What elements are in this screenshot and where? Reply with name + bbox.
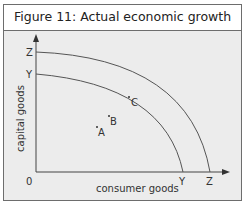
y-axis-y-label: Y: [25, 69, 33, 80]
point-c-dot: [128, 96, 130, 98]
point-a-label: A: [98, 127, 105, 138]
y-axis-z-label: Z: [26, 47, 33, 58]
x-axis-arrow-icon: [222, 169, 230, 175]
y-axis-title: capital goods: [15, 85, 26, 152]
ppf-curve-zz: [36, 52, 210, 172]
point-b-label: B: [110, 116, 117, 127]
ppf-diagram: A B C Z Y Y Z 0 consumer goods capital g…: [0, 0, 245, 205]
x-axis-y-label: Y: [178, 176, 186, 187]
x-axis-z-label: Z: [206, 176, 213, 187]
point-c-label: C: [131, 97, 138, 108]
origin-label: 0: [26, 176, 32, 187]
x-axis-title: consumer goods: [96, 183, 179, 194]
y-axis-arrow-icon: [33, 34, 39, 42]
